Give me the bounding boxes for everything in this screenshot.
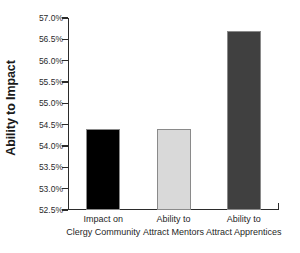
bar <box>157 129 191 210</box>
y-axis-tick-mark <box>62 60 68 61</box>
y-axis-tick-label: 57.0% <box>39 13 63 23</box>
y-axis-tick-label: 55.0% <box>39 98 63 108</box>
y-axis-tick-mark <box>62 124 68 125</box>
bar <box>86 129 120 210</box>
y-axis-tick-label: 54.0% <box>39 141 63 151</box>
y-axis-tick-label: 56.5% <box>39 34 63 44</box>
y-axis-title-text: Ability to Impact <box>4 60 18 156</box>
y-axis-tick-mark <box>62 17 68 18</box>
bar <box>227 31 261 210</box>
y-axis-tick-mark <box>62 167 68 168</box>
x-axis-category-label-line: Ability to <box>194 213 294 226</box>
y-axis-tick-label: 55.5% <box>39 77 63 87</box>
y-axis-tick-mark <box>62 209 68 210</box>
bar-chart: Ability to Impact 52.5%53.0%53.5%54.0%54… <box>0 0 300 253</box>
y-axis-tick-label: 54.5% <box>39 120 63 130</box>
y-axis-tick-mark <box>62 103 68 104</box>
x-axis-category-label: Ability toAttract Apprentices <box>194 213 294 238</box>
y-axis-title: Ability to Impact <box>0 0 22 215</box>
y-axis-tick-label: 53.0% <box>39 184 63 194</box>
y-axis-tick-label: 53.5% <box>39 162 63 172</box>
plot-area <box>68 18 279 210</box>
y-axis-tick-mark <box>62 188 68 189</box>
x-axis-category-labels: Impact onClergy CommunityAbility toAttra… <box>60 213 296 253</box>
y-axis-tick-mark <box>62 145 68 146</box>
y-axis-tick-label: 56.0% <box>39 56 63 66</box>
y-axis-tick-mark <box>62 81 68 82</box>
x-axis-category-label-line: Attract Apprentices <box>194 226 294 239</box>
y-axis-tick-mark <box>62 39 68 40</box>
